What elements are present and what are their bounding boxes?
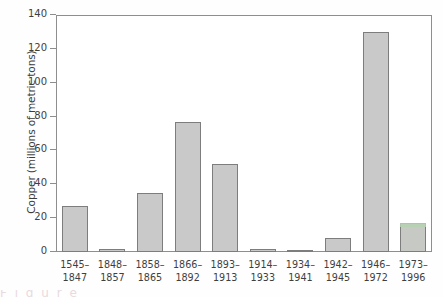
chart-figure: Copper (millions of metric tons) 0204060… (0, 0, 443, 297)
y-tick-mark (50, 217, 56, 218)
x-axis-label: 1934–1941 (282, 259, 320, 284)
bar (62, 206, 88, 252)
x-label-line1: 1914– (248, 259, 277, 270)
x-label-line2: 1941 (282, 272, 320, 285)
y-tick-label: 60 (34, 143, 47, 154)
y-tick-label: 0 (41, 245, 47, 256)
x-label-line1: 1946– (361, 259, 390, 270)
y-tick-label: 40 (34, 177, 47, 188)
x-label-line1: 1545– (60, 259, 89, 270)
y-tick-label: 100 (28, 76, 47, 87)
y-tick-label: 80 (34, 110, 47, 121)
y-tick-mark (50, 14, 56, 15)
x-axis-label: 1545–1847 (56, 259, 94, 284)
x-label-line2: 1945 (319, 272, 357, 285)
y-tick-label: 140 (28, 8, 47, 19)
x-axis-label: 1866–1892 (169, 259, 207, 284)
x-label-line2: 1865 (131, 272, 169, 285)
bar (175, 122, 201, 252)
y-tick-mark (50, 48, 56, 49)
x-label-line1: 1858– (135, 259, 164, 270)
bar (137, 193, 163, 252)
x-axis-label: 1848–1857 (94, 259, 132, 284)
x-label-line2: 1913 (206, 272, 244, 285)
bar (250, 249, 276, 252)
x-label-line2: 1996 (394, 272, 432, 285)
y-tick-mark (50, 116, 56, 117)
bar (287, 250, 313, 253)
y-tick-mark (50, 183, 56, 184)
y-axis-title: Copper (millions of metric tons) (25, 27, 37, 237)
x-label-line1: 1973– (399, 259, 428, 270)
x-axis-label: 1858–1865 (131, 259, 169, 284)
x-label-line1: 1942– (323, 259, 352, 270)
x-axis-label: 1893–1913 (206, 259, 244, 284)
x-label-line1: 1866– (173, 259, 202, 270)
x-label-line2: 1972 (357, 272, 395, 285)
x-axis-label: 1942–1945 (319, 259, 357, 284)
y-tick-mark (50, 251, 56, 252)
x-axis-label: 1946–1972 (357, 259, 395, 284)
bar-top-tint (400, 223, 426, 227)
x-label-line1: 1893– (211, 259, 240, 270)
bar (212, 164, 238, 252)
bar (363, 32, 389, 252)
x-label-line2: 1847 (56, 272, 94, 285)
x-label-line1: 1848– (98, 259, 127, 270)
x-label-line2: 1892 (169, 272, 207, 285)
bar (400, 223, 426, 252)
bar (99, 249, 125, 252)
x-axis-label: 1914–1933 (244, 259, 282, 284)
x-axis-label: 1973–1996 (394, 259, 432, 284)
y-tick-label: 20 (34, 211, 47, 222)
bar (325, 238, 351, 252)
y-tick-mark (50, 149, 56, 150)
x-label-line2: 1857 (94, 272, 132, 285)
x-label-line2: 1933 (244, 272, 282, 285)
y-tick-label: 120 (28, 42, 47, 53)
y-tick-mark (50, 82, 56, 83)
caption-artifact: F i g u r e (0, 290, 443, 297)
x-label-line1: 1934– (286, 259, 315, 270)
